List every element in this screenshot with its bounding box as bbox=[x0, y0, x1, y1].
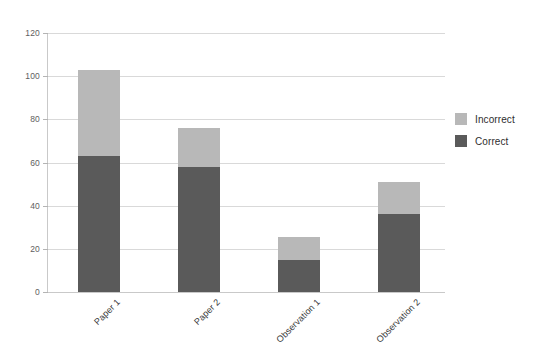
bar-stack bbox=[378, 182, 420, 292]
bar-segment-incorrect bbox=[378, 182, 420, 214]
legend-swatch bbox=[455, 135, 467, 147]
chart-legend: IncorrectCorrect bbox=[455, 108, 515, 152]
plot-area bbox=[48, 33, 445, 292]
bar-segment-incorrect bbox=[278, 237, 320, 260]
legend-swatch bbox=[455, 113, 467, 125]
legend-label: Incorrect bbox=[475, 114, 515, 125]
x-axis-category-label: Observation 2 bbox=[374, 297, 422, 345]
y-axis-tick-label: 120 bbox=[8, 28, 40, 38]
bar-segment-correct bbox=[378, 214, 420, 292]
x-axis-category-label: Observation 1 bbox=[274, 297, 322, 345]
x-axis-line bbox=[48, 292, 445, 293]
bar-segment-correct bbox=[278, 260, 320, 292]
bar-stack bbox=[78, 70, 120, 292]
bar-chart: 020406080100120 Paper 1Paper 2Observatio… bbox=[0, 0, 550, 362]
legend-item: Incorrect bbox=[455, 108, 515, 130]
bar-segment-correct bbox=[78, 156, 120, 292]
bar-segment-incorrect bbox=[178, 128, 220, 167]
y-axis-tick-label: 60 bbox=[8, 158, 40, 168]
gridline bbox=[48, 33, 445, 34]
y-axis-tick-label: 0 bbox=[8, 287, 40, 297]
bar-segment-correct bbox=[178, 167, 220, 292]
y-axis-tick-label: 100 bbox=[8, 71, 40, 81]
bar-stack bbox=[178, 128, 220, 292]
y-axis-tick-label: 80 bbox=[8, 114, 40, 124]
x-axis-category-label: Paper 2 bbox=[192, 297, 222, 327]
legend-item: Correct bbox=[455, 130, 515, 152]
x-axis-category-label: Paper 1 bbox=[92, 297, 122, 327]
bar-segment-incorrect bbox=[78, 70, 120, 156]
y-axis-tick-label: 40 bbox=[8, 201, 40, 211]
y-axis-tick-label: 20 bbox=[8, 244, 40, 254]
bar-stack bbox=[278, 237, 320, 292]
legend-label: Correct bbox=[475, 136, 508, 147]
